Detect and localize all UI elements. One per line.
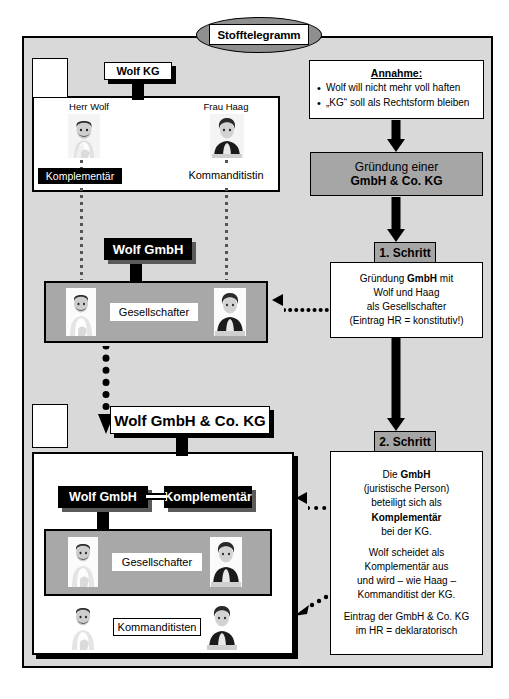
schritt2-p2-l0: Wolf scheidet als [344,546,470,560]
photo-herr-wolf-gmbh [66,288,96,336]
schritt2-box: Die GmbH (juristische Person) beteiligt … [330,451,483,655]
photo-frau-haag-kommanditist [206,602,238,650]
annahme-bullet-0: • Wolf will nicht mehr voll haften [317,82,480,95]
gruendung-line1: Gründung einer [355,160,438,174]
wolf-gmbh-co-kg-label-text: Wolf GmbH & Co. KG [114,412,265,429]
schritt1-line-3: (Eintrag HR = konstitutiv!) [349,314,463,328]
schritt2-p1-l2: beteiligt sich als [344,496,470,510]
komplementaer-double-connector [146,493,166,500]
photo-frau-haag-kg [210,114,244,158]
schritt2-p3-l0: Eintrag der GmbH & Co. KG [344,610,470,624]
wolf-gmbh-stem [130,260,142,282]
wolf-kg-label-text: Wolf KG [116,65,159,77]
dotted-arrow-schritt2-to-komplementaer [296,491,332,505]
schritt2-p1-l3: Komplementär [344,511,470,525]
wolf-gmbh-label: Wolf GmbH [104,238,192,260]
schritt2-badge: 2. Schritt [374,431,436,452]
dotted-arrow-schritt1-to-gmbh [272,293,330,307]
wolf-gmbh-co-kg-label: Wolf GmbH & Co. KG [110,406,270,434]
schritt1-line-2: als Gesellschafter [349,300,463,314]
photo-herr-wolf-kg [68,114,100,158]
schritt2-p1-l0: Die GmbH [344,468,470,482]
schritt2-p2-l3: Kommanditist der KG. [344,588,470,602]
wolf-kg-notch [32,58,68,98]
schritt2-badge-text: 2. Schritt [379,435,430,449]
gesellschafter-label-gmbh-text: Gesellschafter [119,306,189,318]
schritt2-para3: Eintrag der GmbH & Co. KG im HR = deklar… [344,610,470,638]
schritt1-box: Gründung GmbH mit Wolf und Haag als Gese… [330,262,483,338]
photo-frau-haag-gmbh [214,288,246,336]
wolf-kg-stem [132,80,144,100]
wolf-gmbh-co-kg-stem [176,438,188,456]
photo-herr-wolf-kommanditist [68,602,98,650]
arrow-head-icon [272,294,283,306]
inner-wolf-gmbh-label: Wolf GmbH [58,486,148,508]
wolf-kg-label: Wolf KG [104,62,172,80]
arrow-gruendung-to-schritt1 [385,197,407,242]
schritt1-badge-text: 1. Schritt [379,246,430,260]
page-title: Stofftelegramm [209,24,309,45]
role-komplementaer-wolf-kg-text: Komplementär [46,170,114,182]
schritt2-para2: Wolf scheidet als Komplementär aus und w… [344,546,470,603]
arrow-schritt1-to-schritt2 [385,338,407,431]
diagram-canvas: Stofftelegramm Wolf KG Herr Wolf Komplem… [0,0,509,699]
inner-komplementaer-label: Komplementär [164,486,252,508]
inner-wolf-gmbh-stem [97,508,109,530]
arrow-head-icon [296,492,307,504]
annahme-bullet-1: • „KG“ soll als Rechtsform bleiben [317,97,480,110]
schritt1-text: Gründung GmbH mit Wolf und Haag als Gese… [349,272,463,329]
bullet-icon: • [317,82,326,95]
schritt2-p2-l1: Komplementär aus [344,560,470,574]
annahme-title: Annahme: [313,67,480,79]
schritt1-line-1: Wolf und Haag [349,286,463,300]
schritt2-text: Die GmbH (juristische Person) beteiligt … [344,468,470,638]
annahme-bullet-1-text: „KG“ soll als Rechtsform bleiben [326,97,469,110]
role-kommanditistin-haag: Kommanditistin [182,166,270,184]
arrow-annahme-to-gruendung [385,120,407,152]
gesellschafter-label-inner: Gesellschafter [112,553,202,571]
schritt2-bold-gmbh: GmbH [400,469,430,480]
inner-komplementaer-label-text: Komplementär [164,490,252,504]
bullet-icon: • [317,97,326,110]
inner-wolf-gmbh-label-text: Wolf GmbH [69,490,137,504]
role-komplementaer-wolf-kg: Komplementär [38,168,122,184]
schritt2-p2-l2: und wird – wie Haag – [344,574,470,588]
schritt2-p1-l4: bei der KG. [344,525,470,539]
gruendung-box: Gründung einer GmbH & Co. KG [310,152,483,196]
photo-frau-haag-inner [210,537,242,587]
schritt2-p3-l1: im HR = deklaratorisch [344,624,470,638]
annahme-box: Annahme: • Wolf will nicht mehr voll haf… [309,60,484,119]
schritt2-para1: Die GmbH (juristische Person) beteiligt … [344,468,470,539]
schritt2-p1-l1: (juristische Person) [344,482,470,496]
person-name-herr-wolf: Herr Wolf [50,101,128,112]
role-kommanditistin-haag-text: Kommanditistin [188,169,263,181]
gesellschafter-label-gmbh: Gesellschafter [110,303,198,321]
wolf-gmbh-label-text: Wolf GmbH [113,242,184,257]
annahme-bullet-0-text: Wolf will nicht mehr voll haften [326,82,460,95]
kommanditisten-label-text: Kommanditisten [118,621,197,633]
wolf-gmbh-co-kg-notch [32,404,68,448]
schritt1-line-0: Gründung GmbH mit [349,272,463,286]
schritt1-badge: 1. Schritt [374,242,436,263]
person-name-frau-haag: Frau Haag [186,101,266,112]
gruendung-line2: GmbH & Co. KG [351,174,443,188]
dotted-arrow-schritt2-to-kommanditisten [294,592,334,622]
photo-herr-wolf-inner [68,537,98,587]
gesellschafter-label-inner-text: Gesellschafter [122,556,192,568]
kommanditisten-label: Kommanditisten [113,618,201,636]
schritt1-bold-gmbh: GmbH [407,273,437,284]
